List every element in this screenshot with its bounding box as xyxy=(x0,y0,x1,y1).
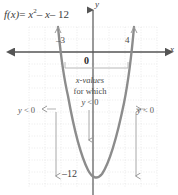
parabola-figure: f(x)= x2– x– 12 x y –3 4 0 –12 x-values … xyxy=(0,0,178,195)
right-region-annotation: y < 0 xyxy=(137,106,154,115)
center-annotation-line1: x-values xyxy=(76,75,104,85)
x-axis-label: x xyxy=(170,45,174,54)
origin-label: 0 xyxy=(84,56,89,66)
left-region-ineq: < 0 xyxy=(22,105,35,115)
center-annotation-ineq: < 0 xyxy=(85,97,98,107)
quadratic-term: x2 xyxy=(28,8,36,20)
function-label: f(x)= x2– x– 12 xyxy=(4,8,69,20)
center-annotation-line3: y < 0 xyxy=(81,97,98,107)
left-region-annotation: y < 0 xyxy=(18,106,35,115)
center-annotation-line2: for which xyxy=(74,86,107,96)
linear-term: – x xyxy=(37,8,50,20)
equals-sign: = xyxy=(19,8,25,20)
tick-label-right-root: 4 xyxy=(125,36,130,45)
function-name: f(x) xyxy=(4,8,19,20)
y-axis-label: y xyxy=(95,0,99,9)
constant-term: – 12 xyxy=(50,8,69,20)
right-region-ineq: < 0 xyxy=(141,105,154,115)
vertex-label: –12 xyxy=(62,169,77,179)
center-annotation: x-values for which y < 0 xyxy=(60,75,120,108)
tick-label-left-root: –3 xyxy=(56,36,65,45)
